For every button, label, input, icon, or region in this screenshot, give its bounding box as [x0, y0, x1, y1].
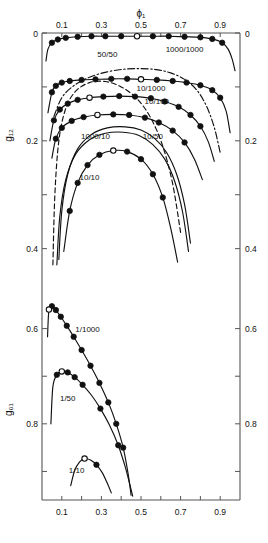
- xticklabel-bottom-1: 0.3: [95, 507, 107, 517]
- marker-open-10/1000: [87, 95, 92, 100]
- curve-label-10/1000: 10/1000: [136, 84, 165, 93]
- yticklabel-left-upper-1: 0.2: [26, 136, 38, 146]
- yticklabel-left-lower-0: 0.6: [26, 324, 38, 334]
- yticklabel-right-upper-1: 0.2: [245, 136, 257, 146]
- marker-filled-10/1000: [188, 112, 193, 117]
- marker-filled-1/1000: [97, 380, 102, 385]
- curve-upper-1000/10: [59, 127, 191, 260]
- marker-filled-10/100: [111, 112, 116, 117]
- marker-filled-10/10: [138, 156, 143, 161]
- marker-filled-1000/1000: [182, 34, 187, 39]
- xticklabel-bottom-2: 0.5: [135, 507, 147, 517]
- yticklabel-left-upper-0: 0: [33, 29, 38, 39]
- xticklabel-top-3: 0.7: [175, 20, 187, 30]
- marker-filled-10/10: [124, 149, 129, 154]
- marker-filled-10/1000: [57, 107, 62, 112]
- marker-filled-1000/1000: [210, 36, 215, 41]
- yaxis-label-lower: g₀₁: [3, 402, 14, 416]
- marker-filled-50/50: [109, 76, 114, 81]
- marker-filled-1000/1000: [75, 34, 80, 39]
- curve-upper-10/1000: [50, 96, 214, 161]
- yticklabel-right-upper-2: 0.4: [245, 244, 257, 254]
- marker-filled-10/10: [150, 172, 155, 177]
- curve-upper-100/10-dashed: [53, 81, 181, 265]
- marker-filled-1000/1000: [166, 34, 171, 39]
- xticklabel-bottom-4: 0.9: [214, 507, 226, 517]
- marker-filled-50/50: [170, 78, 175, 83]
- marker-filled-50/50: [218, 95, 223, 100]
- marker-filled-50/50: [210, 87, 215, 92]
- marker-filled-1/50: [65, 370, 70, 375]
- marker-filled-1/1000: [58, 314, 63, 319]
- marker-filled-10/1000: [176, 104, 181, 109]
- marker-filled-1/50: [98, 406, 103, 411]
- yticklabel-right-upper-0: 0: [245, 29, 250, 39]
- yticklabel-right-lower-0: 0.6: [245, 324, 257, 334]
- xticklabel-top-4: 0.9: [214, 20, 226, 30]
- curve-lower-1/50: [51, 371, 133, 496]
- curve-label-10/50: 10/50: [143, 132, 164, 141]
- xaxis-label-top: ϕ₁: [137, 8, 147, 19]
- marker-filled-10/100: [182, 140, 187, 145]
- plot-svg: 0.10.30.50.70.9ϕ₁0.10.30.50.70.9000.20.2…: [0, 0, 268, 543]
- xticklabel-bottom-0: 0.1: [56, 507, 68, 517]
- marker-filled-50/50: [49, 90, 54, 95]
- marker-filled-50/50: [53, 83, 58, 88]
- marker-filled-1/50: [54, 372, 59, 377]
- marker-filled-10/1000: [75, 97, 80, 102]
- curve-label-10/100: 10/100: [145, 97, 170, 106]
- marker-filled-10/1000: [117, 93, 122, 98]
- marker-filled-10/1000: [51, 118, 56, 123]
- marker-filled-1000/1000: [150, 34, 155, 39]
- curve-lower-1/10: [71, 459, 112, 493]
- curve-label-1000/1000: 1000/1000: [166, 45, 204, 54]
- marker-filled-50/50: [67, 78, 72, 83]
- marker-filled-10/10: [85, 162, 90, 167]
- marker-open-1/10: [82, 456, 87, 461]
- marker-filled-10/100: [142, 115, 147, 120]
- marker-filled-10/1000: [101, 94, 106, 99]
- marker-filled-1/1000: [71, 334, 76, 339]
- marker-filled-1/1000: [88, 363, 93, 368]
- marker-filled-1/50: [72, 374, 77, 379]
- marker-filled-1/50: [116, 443, 121, 448]
- figure-root: 0.10.30.50.70.9ϕ₁0.10.30.50.70.9000.20.2…: [0, 0, 268, 543]
- marker-open-1/1000: [46, 307, 51, 312]
- yaxis-label-upper: g₁₂: [3, 129, 14, 142]
- marker-filled-1000/1000: [49, 40, 54, 45]
- marker-filled-10/100: [126, 112, 131, 117]
- marker-filled-1/1000: [114, 421, 119, 426]
- yticklabel-right-lower-1: 0.8: [245, 419, 257, 429]
- marker-filled-1000/1000: [219, 40, 224, 45]
- marker-filled-10/100: [156, 120, 161, 125]
- curve-upper-10/50: [57, 132, 189, 265]
- curve-upper-10/100: [52, 114, 202, 179]
- marker-filled-1/1000: [106, 400, 111, 405]
- curve-label-1/1000: 1/1000: [75, 325, 100, 334]
- marker-filled-50/50: [59, 80, 64, 85]
- marker-filled-10/100: [69, 118, 74, 123]
- marker-filled-1000/1000: [89, 34, 94, 39]
- xticklabel-bottom-3: 0.7: [175, 507, 187, 517]
- marker-filled-10/1000: [198, 124, 203, 129]
- marker-filled-1000/1000: [55, 37, 60, 42]
- marker-filled-1/1000: [79, 347, 84, 352]
- xticklabel-top-2: 0.5: [135, 20, 147, 30]
- curve-label-50/50: 50/50: [97, 50, 118, 59]
- xticklabel-top-1: 0.3: [95, 20, 107, 30]
- marker-filled-1/50: [80, 382, 85, 387]
- marker-filled-1000/1000: [119, 34, 124, 39]
- marker-filled-10/10: [97, 152, 102, 157]
- marker-filled-10/100: [59, 125, 64, 130]
- marker-filled-10/100: [81, 114, 86, 119]
- xticklabel-top-0: 0.1: [56, 20, 68, 30]
- marker-filled-1/10: [94, 462, 99, 467]
- marker-open-1000/1000: [134, 34, 139, 39]
- marker-open-1/50: [59, 369, 64, 374]
- marker-filled-1000/1000: [63, 35, 68, 40]
- curve-label-1/10: 1/10: [69, 466, 85, 475]
- marker-filled-10/10: [160, 195, 165, 200]
- curve-label-10/10: 10/10: [80, 173, 101, 182]
- marker-filled-50/50: [124, 76, 129, 81]
- marker-open-10/100: [95, 112, 100, 117]
